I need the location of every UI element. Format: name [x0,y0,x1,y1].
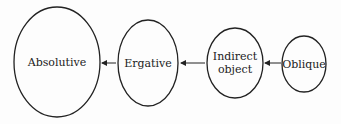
indirect-object-label-line2: object [218,63,253,76]
node-ergative: Ergative [118,20,178,106]
node-oblique: Oblique [282,36,326,92]
node-absolutive: Absolutive [14,7,100,117]
oblique-label: Oblique [282,58,326,71]
ergative-label: Ergative [124,57,172,70]
absolutive-label: Absolutive [27,56,87,69]
node-indirect-object: Indirect object [207,28,263,98]
case-hierarchy-diagram: Absolutive Ergative Indirect object Obli… [0,0,341,124]
indirect-object-label-line1: Indirect [213,50,258,63]
